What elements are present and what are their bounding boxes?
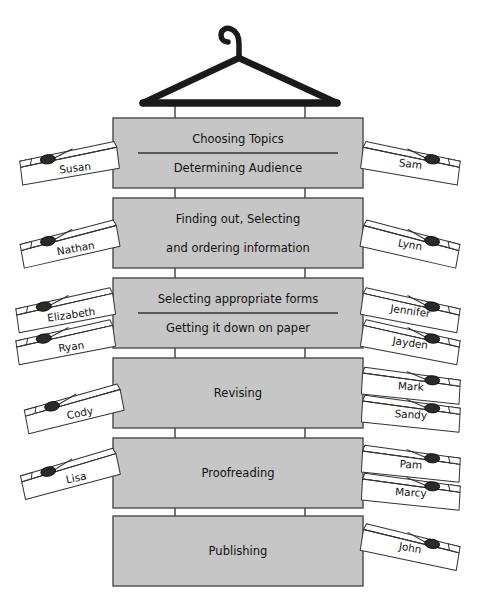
clothespin-jaw <box>448 457 460 465</box>
hanger-attach-point <box>172 100 177 105</box>
stage-label: and ordering information <box>166 241 310 255</box>
stage-box-group: Publishing <box>113 516 363 586</box>
hanger-attach-point <box>302 100 307 105</box>
stage-label: Getting it down on paper <box>166 321 310 335</box>
clothespin-name-label: Marcy <box>395 485 427 499</box>
writing-process-hanger-diagram: Choosing TopicsDetermining AudienceFindi… <box>0 0 478 607</box>
stage-box-group: Proofreading <box>113 438 363 508</box>
clothespin-jaw <box>448 407 460 415</box>
clothespin-name-label: Sandy <box>394 407 427 421</box>
stage-box-group: Finding out, Selectingand ordering infor… <box>113 198 363 268</box>
stage-box-group: Choosing TopicsDetermining Audience <box>113 118 363 188</box>
stage-label: Revising <box>214 386 262 400</box>
stage-label: Finding out, Selecting <box>176 212 300 226</box>
stage-box <box>113 198 363 268</box>
stage-box-group: Revising <box>113 358 363 428</box>
stage-label: Choosing Topics <box>192 132 284 146</box>
clothespin-jaw <box>448 379 460 387</box>
stage-label: Proofreading <box>201 466 274 480</box>
clothespin-name-label: Pam <box>399 458 422 471</box>
clothespin-name-label: Mark <box>398 379 425 392</box>
stage-box-group: Selecting appropriate formsGetting it do… <box>113 278 363 348</box>
stage-label: Determining Audience <box>174 161 303 175</box>
stage-label: Publishing <box>209 544 268 558</box>
diagram-canvas: Choosing TopicsDetermining AudienceFindi… <box>0 0 478 607</box>
stage-label: Selecting appropriate forms <box>158 292 318 306</box>
clothespin-jaw <box>448 485 460 493</box>
